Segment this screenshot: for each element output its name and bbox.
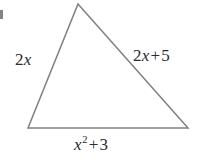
bottom-constant: 3 xyxy=(100,135,109,154)
bottom-operator: + xyxy=(88,135,100,154)
left-variable: x xyxy=(24,50,32,69)
side-label-right: 2x+5 xyxy=(133,47,170,64)
right-operator: + xyxy=(149,46,161,65)
right-coefficient: 2 xyxy=(133,46,142,65)
side-label-left: 2x xyxy=(15,51,31,68)
right-constant: 5 xyxy=(161,46,170,65)
bottom-exponent: 2 xyxy=(82,134,88,145)
bottom-variable: x xyxy=(74,135,82,154)
triangle-figure: 2x 2x+5 x2+3 xyxy=(0,0,199,161)
page-edge-mark xyxy=(0,10,3,19)
left-coefficient: 2 xyxy=(15,50,24,69)
side-label-bottom: x2+3 xyxy=(74,136,108,153)
triangle-outline xyxy=(28,4,188,128)
